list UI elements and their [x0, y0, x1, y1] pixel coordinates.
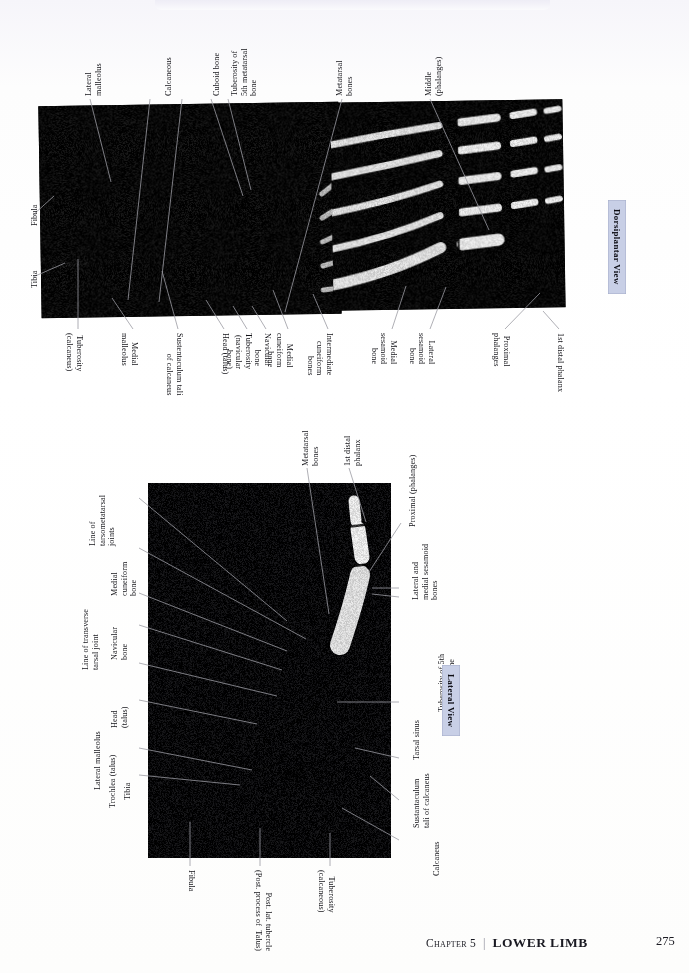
label-head-talus-lateral: Head (talus)	[110, 706, 129, 728]
label-tuberosity-calcaneous-lateral: Tuberosity (calcaneous)	[317, 870, 336, 913]
dorsiplantar-xray-image	[38, 102, 341, 319]
label-post-lat-tubercle: Post. lat. tubercle (Post. process of Ta…	[254, 870, 273, 951]
label-lateral-malleolus: Lateral malleolus	[84, 63, 103, 96]
label-fibula-dorsiplantar: Fibula	[30, 204, 40, 226]
label-metatarsal-bones-lateral: Metatarsal bones	[301, 430, 320, 466]
label-medial-cuneiform-bone-dorsiplantar: Medial cuneiform bone	[265, 333, 294, 368]
label-line-of-transverse-tarsal-joint: Line of transverse tarsal joint	[81, 609, 100, 670]
label-tuberosity-calcaneus: Tuberosity (calcaneus)	[65, 333, 84, 371]
label-line-of-tarsometatarsal-joints: Line of tarsometatarsal joints	[88, 495, 117, 546]
textbook-page: Lateral malleolus Calcaneous Cuboid bone…	[0, 0, 689, 973]
footer-page-number: 275	[656, 934, 675, 949]
label-metatarsal-bones-top: Metatarsal bones	[335, 60, 354, 96]
label-tibia-dorsiplantar: Tibia	[30, 271, 40, 289]
label-middle-phalanges: Middle (phalanges)	[424, 57, 443, 96]
label-lateral-medial-sesamoid-bones: Lateral and medial sesamoid bones	[411, 544, 440, 600]
dorsiplantar-xray-plate	[38, 102, 341, 319]
label-cuboid-bone: Cuboid bone	[212, 53, 222, 96]
label-1st-distal-phalanx-dorsiplantar: 1st distal phalanx	[555, 333, 565, 392]
page-footer: Chapter 5 | LOWER LIMB	[426, 935, 588, 951]
label-trochlea-talus: Trochlea (talus)	[108, 755, 118, 808]
label-1st-distal-phalanx-lateral: 1st distal phalanx	[343, 436, 362, 466]
lateral-xray-image	[148, 483, 391, 858]
footer-chapter-label: Chapter 5	[426, 937, 476, 949]
footer-section-title: LOWER LIMB	[493, 935, 588, 951]
dorsiplantar-xray-plate-right	[330, 99, 565, 311]
label-sustantaculum-tali-of-calcaneus: Sustantaculum tali of calcaneus	[412, 773, 431, 828]
label-calcaneous: Calcaneous	[164, 57, 174, 96]
badge-lateral-view: Lateral View	[442, 665, 460, 736]
label-lateral-malleolus-lateral: Lateral malleolus	[93, 731, 103, 790]
page-top-scan-band	[155, 0, 550, 10]
label-tuberosity-navicular: Tuberosity (navicular bone)	[224, 333, 253, 369]
label-medial-sesamoid-bone: Medial sesamoid bone	[369, 333, 398, 364]
label-proximal-phalanges-dorsiplantar: Proximal phalanges	[492, 333, 511, 367]
label-lateral-sesamoid-bone: Lateral sesamoid bone	[407, 333, 436, 364]
label-fibula-lateral: Fibula	[186, 870, 196, 892]
label-navicular-bone-lateral: Navicular bone	[110, 627, 129, 660]
label-calcaneus-lateral: Calcaneus	[432, 841, 442, 876]
label-intermediate-cuneiform-bones: Intermediate cuneiform bones	[305, 333, 334, 376]
label-medial-malleolus: Medial malleolus	[120, 333, 139, 366]
label-tarsal-sinus: Tarsal sinus	[412, 720, 422, 760]
label-proximal-phalanges-lateral: Proximal (phalanges)	[408, 455, 418, 527]
lateral-xray-plate	[148, 483, 391, 858]
label-sustentaculum-tali: Sustentaculum tali of calcaneus	[165, 333, 184, 396]
label-medial-cuneiform-bone-lateral: Medial cuneiform bone	[110, 561, 139, 596]
badge-dorsiplantar-view: Dorsiplantar View	[608, 200, 626, 294]
dorsiplantar-xray-image-forefoot	[330, 99, 565, 311]
label-tuberosity-5th-metatarsal: Tuberosity of 5th metatarsal bone	[230, 48, 259, 96]
footer-separator: |	[483, 936, 485, 951]
label-tibia-lateral: Tibia	[123, 783, 133, 801]
